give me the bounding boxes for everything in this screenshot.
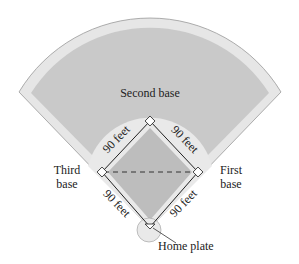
diagram-canvas: Second base Third base First base Home p…	[0, 0, 299, 264]
first-base-label-line1: First	[220, 163, 243, 177]
second-base-label: Second base	[120, 86, 180, 100]
baseball-diamond-diagram: Second base Third base First base Home p…	[0, 0, 299, 264]
third-base-label-line1: Third	[54, 163, 81, 177]
third-base-label-line2: base	[56, 177, 77, 191]
home-plate-label: Home plate	[158, 239, 214, 253]
first-base-label-line2: base	[220, 177, 241, 191]
